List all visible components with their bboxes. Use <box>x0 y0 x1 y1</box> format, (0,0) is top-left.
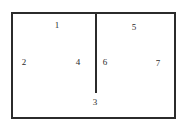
label-3: 3 <box>93 98 98 107</box>
label-7: 7 <box>156 59 161 68</box>
label-6: 6 <box>103 58 108 67</box>
vertical-divider <box>95 12 97 93</box>
diagram-canvas: 1 2 3 4 5 6 7 <box>0 0 188 129</box>
label-4: 4 <box>76 58 81 67</box>
label-5: 5 <box>132 23 137 32</box>
label-1: 1 <box>55 21 60 30</box>
label-2: 2 <box>22 58 27 67</box>
